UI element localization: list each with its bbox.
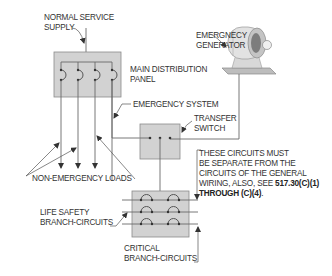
note-line1: THESE CIRCUITS MUST: [199, 149, 289, 158]
separation-note: THESE CIRCUITS MUST BE SEPARATE FROM THE…: [199, 149, 320, 198]
normal-service-supply-line2: SUPPLY: [44, 23, 75, 32]
branch-panel-box: [132, 191, 189, 237]
normal-service-supply-label: NORMAL SERVICE SUPPLY: [44, 13, 115, 43]
note-ref-a: 517.30(C)(1): [275, 179, 319, 188]
emergency-generator-label-line2: GENERATOR: [196, 41, 246, 50]
emergency-generator-label-line1: EMERGNECY: [196, 31, 248, 40]
transfer-switch-label-line1: TRANSFER: [194, 114, 237, 123]
main-panel-label-line1: MAIN DISTRIBUTION: [130, 65, 207, 74]
main-panel-box: [54, 52, 121, 97]
normal-service-supply-line1: NORMAL SERVICE: [44, 13, 115, 22]
life-safety-label-line1: LIFE SAFETY: [40, 208, 90, 217]
life-safety-label-line2: BRANCH-CIRCUITS: [40, 218, 114, 227]
transfer-switch-leader: [182, 121, 192, 132]
note-ref-b: THROUGH (C)(4): [199, 189, 262, 198]
note-line3: CIRCUITS OF THE GENERAL: [199, 169, 307, 178]
critical-label-line2: BRANCH-CIRCUITS: [124, 254, 198, 263]
critical-label-line1: CRITICAL: [124, 244, 160, 253]
note-line2: BE SEPARATE FROM THE: [199, 159, 296, 168]
emergency-system-label: EMERGENCY SYSTEM: [133, 100, 219, 109]
branch-circuit-panel: [122, 191, 198, 237]
emergency-system-leader: [114, 104, 131, 118]
note-line4: WIRING, ALSO, SEE 517.30(C)(1): [199, 179, 320, 188]
note-line5: THROUGH (C)(4).: [199, 189, 263, 198]
diagram-canvas: NORMAL SERVICE SUPPLY MAIN DISTRIBUTION …: [0, 0, 332, 276]
transfer-switch-label-line2: SWITCH: [194, 124, 225, 133]
note-tail: .: [261, 189, 263, 198]
main-panel-label-line2: PANEL: [130, 75, 156, 84]
main-distribution-panel: [54, 52, 121, 97]
note-line4-text: WIRING, ALSO, SEE: [199, 179, 275, 188]
non-emergency-loads-label: NON-EMERGENCY LOADS: [32, 174, 133, 183]
non-emergency-leaders: [26, 136, 135, 179]
